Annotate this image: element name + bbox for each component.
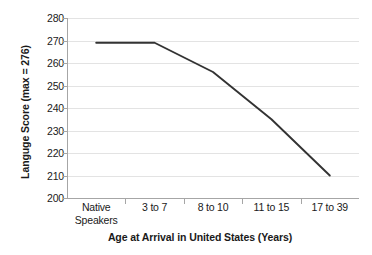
x-tick-label-line: 17 to 39 (301, 201, 359, 214)
y-tick-label: 200 (28, 192, 64, 204)
x-tick-label-line: 3 to 7 (125, 201, 183, 214)
x-tick-label: 11 to 15 (242, 201, 300, 214)
y-tick-label: 220 (28, 147, 64, 159)
x-tick-label: NativeSpeakers (67, 201, 125, 226)
y-tick-label: 260 (28, 57, 64, 69)
plot-area (67, 18, 359, 198)
y-axis-tick-labels: 280270260250240230220210200 (28, 0, 64, 255)
x-axis-tick-labels: NativeSpeakers3 to 78 to 1011 to 1517 to… (67, 201, 359, 231)
x-axis-title: Age at Arrival in United States (Years) (40, 231, 360, 243)
y-tick-label: 250 (28, 80, 64, 92)
x-tick-label-line: 8 to 10 (184, 201, 242, 214)
series-line-language-score (67, 18, 359, 199)
y-tick-label: 240 (28, 102, 64, 114)
x-tick-label: 3 to 7 (125, 201, 183, 214)
x-tick-label-line: 11 to 15 (242, 201, 300, 214)
x-tick-label-line: Native (67, 201, 125, 214)
y-tick-label: 270 (28, 35, 64, 47)
line-chart-figure: Languge Score (max = 276) 28027026025024… (0, 0, 372, 255)
y-tick-label: 230 (28, 125, 64, 137)
y-tick-label: 210 (28, 170, 64, 182)
x-tick-label: 17 to 39 (301, 201, 359, 214)
x-tick-label-line: Speakers (67, 214, 125, 227)
x-tick-label: 8 to 10 (184, 201, 242, 214)
y-tick-label: 280 (28, 12, 64, 24)
